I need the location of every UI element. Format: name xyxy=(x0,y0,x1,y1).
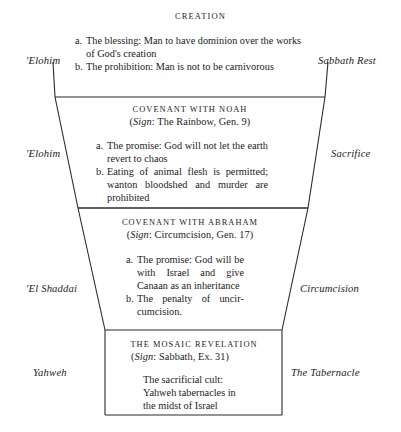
noah-item-b-mark: b. xyxy=(96,165,107,178)
creation-items: a. The blessing: Man to have dominion ov… xyxy=(75,34,305,73)
abraham-item-b-mark: b. xyxy=(126,292,137,305)
abraham-item-b-text: The penalty of uncir­cumcision. xyxy=(137,292,244,318)
abraham-heading: COVENANT WITH ABRAHAM xyxy=(95,218,285,229)
mosaic-sign-prefix: Sign xyxy=(135,351,154,362)
noah-right-edge xyxy=(308,97,325,208)
creation-right-edge xyxy=(325,62,328,97)
creation-item-b-text: The prohibition: Man is not to be carniv… xyxy=(86,60,305,73)
noah-right-label: Sacrifice xyxy=(331,148,370,159)
figure-page: CREATION a. The blessing: Man to have do… xyxy=(0,0,401,432)
noah-heading: COVENANT WITH NOAH xyxy=(95,105,285,116)
abraham-sign-rest: : Circumcision, Gen. 17) xyxy=(149,229,254,240)
abraham-items: a. The promise: God will be with Israel … xyxy=(126,253,244,318)
creation-item-a: a. The blessing: Man to have dominion ov… xyxy=(75,34,305,60)
abraham-item-a-text: The promise: God will be with Israel and… xyxy=(137,253,244,292)
mosaic-body-line-2: Yahweh tabernacles in xyxy=(143,386,273,399)
noah-left-label: 'Elohim xyxy=(26,148,60,159)
noah-sign-rest: : The Rainbow, Gen. 9) xyxy=(152,116,251,127)
abraham-right-label: Circumcision xyxy=(300,283,359,294)
abraham-sign: (Sign: Circumcision, Gen. 17) xyxy=(95,229,285,242)
creation-item-b-mark: b. xyxy=(75,60,86,73)
abraham-right-edge xyxy=(282,208,308,330)
mosaic-sign: (Sign: Sabbath, Ex. 31) xyxy=(113,351,293,364)
creation-item-a-text: The blessing: Man to have dominion over … xyxy=(86,34,305,60)
mosaic-right-label: The Tabernacle xyxy=(291,367,360,378)
creation-right-label: Sabbath Rest xyxy=(318,55,376,66)
noah-item-a-mark: a. xyxy=(96,139,107,152)
abraham-left-label: 'El Shaddai xyxy=(26,283,77,294)
noah-sign-prefix: Sign xyxy=(133,116,152,127)
creation-item-a-mark: a. xyxy=(75,34,86,47)
noah-item-b: b. Eating of animal flesh is permitted; … xyxy=(96,165,268,204)
noah-item-a-text: The promise: God will not let the earth … xyxy=(107,139,268,165)
noah-item-a: a. The promise: God will not let the ear… xyxy=(96,139,268,165)
abraham-item-a: a. The promise: God will be with Israel … xyxy=(126,253,244,292)
abraham-item-a-mark: a. xyxy=(126,253,137,266)
creation-item-b: b. The prohibition: Man is not to be car… xyxy=(75,60,305,73)
mosaic-body: The sacrificial cult: Yahweh tabernacles… xyxy=(143,373,273,412)
mosaic-left-label: Yahweh xyxy=(33,367,67,378)
mosaic-body-line-3: the midst of Israel xyxy=(143,399,273,412)
abraham-item-b: b. The penalty of uncir­cumcision. xyxy=(126,292,244,318)
abraham-sign-prefix: Sign xyxy=(130,229,149,240)
mosaic-sign-rest: : Sabbath, Ex. 31) xyxy=(153,351,229,362)
creation-left-edge xyxy=(53,62,55,97)
noah-sign: (Sign: The Rainbow, Gen. 9) xyxy=(95,116,285,129)
noah-items: a. The promise: God will not let the ear… xyxy=(96,139,268,204)
mosaic-body-line-1: The sacrificial cult: xyxy=(143,373,273,386)
creation-left-label: 'Elohim xyxy=(26,55,60,66)
noah-item-b-text: Eating of animal flesh is permitted; wan… xyxy=(107,165,268,204)
creation-heading: CREATION xyxy=(0,11,401,21)
mosaic-heading: THE MOSAIC REVELATION xyxy=(113,340,275,351)
